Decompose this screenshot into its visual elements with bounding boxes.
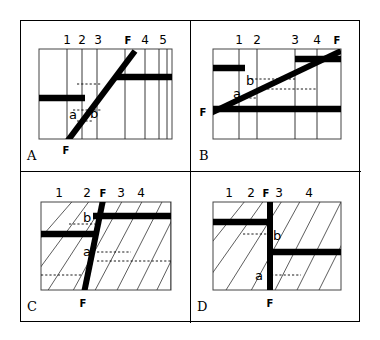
panel-a-fault-label-top: F bbox=[125, 35, 132, 46]
panel-d-column-label-4: 4 bbox=[305, 186, 313, 200]
panel-d-hatch bbox=[271, 196, 323, 298]
panel-b-column-label-4: 4 bbox=[313, 33, 321, 47]
panel-b-diagram: 1 2 3 4 F F a b bbox=[191, 21, 361, 171]
panel-a-column-label-4: 4 bbox=[141, 33, 149, 47]
panel-b-fault-label-top: F bbox=[334, 35, 341, 46]
panel-c-offset-label-a: a bbox=[83, 244, 91, 259]
panel-b-column-label-2: 2 bbox=[253, 33, 261, 47]
panel-d-column-label-2: 2 bbox=[247, 186, 255, 200]
panel-d-letter: D bbox=[197, 300, 207, 313]
panel-b: 1 2 3 4 F F a b B bbox=[191, 21, 361, 172]
panel-d-hatch bbox=[293, 198, 343, 298]
panel-c-column-label-2: 2 bbox=[83, 186, 91, 200]
panel-d-fault-label-top: F bbox=[263, 188, 270, 199]
panel-c-hatch bbox=[113, 196, 165, 298]
panel-d-offset-label-a: a bbox=[255, 268, 263, 283]
panel-b-offset-label-a: a bbox=[233, 86, 241, 101]
panel-d-block-outline bbox=[213, 202, 341, 290]
panel-d-offset-label-b: b bbox=[273, 228, 281, 243]
panel-a-offset-label-a: a bbox=[69, 107, 77, 122]
panel-c-fault-label-bottom: F bbox=[80, 298, 87, 309]
panel-c-offset-label-b: b bbox=[83, 210, 91, 225]
figure-frame: 1 2 3 4 5 F F a b A bbox=[20, 20, 360, 322]
panel-a-diagram: 1 2 3 4 5 F F a b bbox=[21, 21, 191, 171]
panel-b-offset-label-b: b bbox=[246, 73, 254, 88]
panel-b-fault-label-bottom: F bbox=[200, 107, 207, 118]
panel-d-diagram: 1 2 3 4 F F a b bbox=[191, 172, 361, 323]
panel-c-letter: C bbox=[27, 300, 37, 313]
panel-b-column-label-3: 3 bbox=[291, 33, 299, 47]
panel-a: 1 2 3 4 5 F F a b A bbox=[21, 21, 191, 172]
figure-page: 1 2 3 4 5 F F a b A bbox=[0, 0, 380, 340]
panel-c-column-label-4: 4 bbox=[137, 186, 145, 200]
panel-b-column-label-1: 1 bbox=[235, 33, 243, 47]
panel-a-column-label-2: 2 bbox=[78, 33, 86, 47]
panel-c: 1 2 3 4 F F a b C bbox=[21, 172, 191, 323]
panel-c-column-label-1: 1 bbox=[55, 186, 63, 200]
panel-a-column-label-5: 5 bbox=[159, 33, 167, 47]
panel-a-fault-label-bottom: F bbox=[63, 145, 70, 156]
panel-a-column-label-3: 3 bbox=[94, 33, 102, 47]
panel-b-fault-plane bbox=[211, 51, 341, 113]
panel-a-offset-label-b: b bbox=[90, 106, 98, 121]
panel-d: 1 2 3 4 F F a b D bbox=[191, 172, 361, 323]
panel-a-column-label-1: 1 bbox=[63, 33, 71, 47]
panel-a-letter: A bbox=[27, 149, 36, 162]
panel-d-column-label-3: 3 bbox=[275, 186, 283, 200]
panel-c-diagram: 1 2 3 4 F F a b bbox=[21, 172, 191, 323]
panel-d-hatch bbox=[209, 196, 267, 278]
panel-d-column-label-1: 1 bbox=[225, 186, 233, 200]
panel-c-column-label-3: 3 bbox=[117, 186, 125, 200]
panel-c-fault-label-top: F bbox=[100, 188, 107, 199]
panel-c-hatch bbox=[153, 220, 191, 298]
panel-d-fault-label-bottom: F bbox=[267, 298, 274, 309]
panel-c-hatch bbox=[69, 196, 125, 298]
panel-b-letter: B bbox=[199, 149, 209, 162]
